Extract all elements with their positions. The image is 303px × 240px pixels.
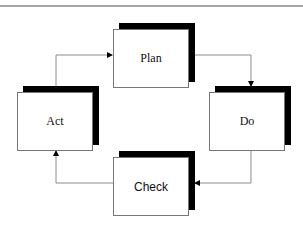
node-box: Check [113,157,189,216]
node-label-check: Check [134,180,168,194]
node-label-plan: Plan [140,51,161,66]
node-box: Do [209,92,285,151]
edge-plan-to-do [195,55,251,86]
node-label-do: Do [240,114,255,129]
node-act: Act [17,92,93,151]
node-label-act: Act [46,114,63,129]
node-box: Plan [113,29,189,88]
node-do: Do [209,92,285,151]
edge-do-to-check [195,151,251,183]
node-check: Check [113,157,189,216]
node-plan: Plan [113,29,189,88]
node-box: Act [17,92,93,151]
edge-act-to-plan [56,55,112,87]
edge-check-to-act [56,151,113,183]
